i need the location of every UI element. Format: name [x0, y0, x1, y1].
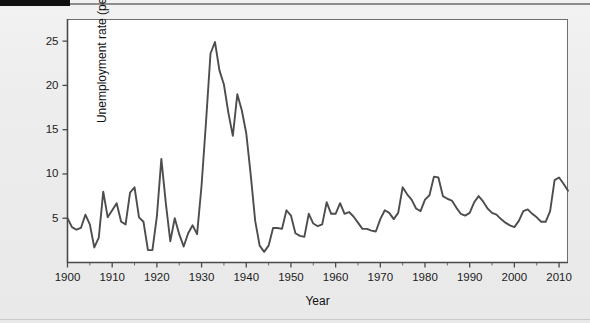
chart-canvas: 1900191019201930194019501960197019801990… — [0, 6, 590, 318]
bottom-divider-rule — [0, 319, 590, 320]
svg-text:1930: 1930 — [189, 271, 215, 283]
top-divider-rule — [70, 3, 590, 5]
x-axis-title: Year — [67, 294, 568, 308]
y-axis-title: Unemployment rate (percent) — [92, 0, 110, 150]
svg-text:1970: 1970 — [368, 271, 394, 283]
unemployment-rate-line — [68, 42, 569, 252]
y-axis-title-text: Unemployment rate (percent) — [95, 0, 109, 123]
svg-text:1900: 1900 — [55, 271, 81, 283]
svg-text:2000: 2000 — [502, 271, 528, 283]
svg-text:1940: 1940 — [233, 271, 259, 283]
svg-text:1960: 1960 — [323, 271, 349, 283]
svg-text:1980: 1980 — [412, 271, 438, 283]
unemployment-rate-chart: 1900191019201930194019501960197019801990… — [0, 6, 590, 318]
svg-text:1990: 1990 — [457, 271, 483, 283]
svg-text:1910: 1910 — [99, 271, 125, 283]
y-axis-tick-labels: 510152025 — [46, 35, 59, 224]
svg-text:5: 5 — [52, 212, 58, 224]
x-axis-title-text: Year — [305, 294, 329, 308]
x-axis-tick-labels: 1900191019201930194019501960197019801990… — [55, 271, 572, 283]
svg-text:20: 20 — [46, 79, 59, 91]
svg-text:10: 10 — [46, 167, 59, 179]
svg-text:1950: 1950 — [278, 271, 304, 283]
svg-text:25: 25 — [46, 35, 59, 47]
svg-text:1920: 1920 — [144, 271, 170, 283]
svg-text:15: 15 — [46, 123, 59, 135]
svg-text:2010: 2010 — [546, 271, 572, 283]
figure-page: 1900191019201930194019501960197019801990… — [0, 0, 590, 323]
